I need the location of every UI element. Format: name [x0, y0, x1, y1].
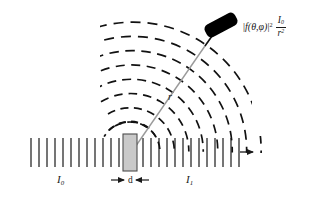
- formula-numerator: I0: [276, 16, 286, 27]
- sample-slab: [123, 134, 137, 171]
- thickness-label: d: [128, 176, 133, 186]
- formula-amplitude: |f(θ,φ)|2: [243, 22, 273, 32]
- scattered-intensity-formula: |f(θ,φ)|2 I0 r2: [243, 16, 286, 39]
- distance-label: r: [168, 92, 172, 102]
- scattering-diagram: I0 I1 d r |f(θ,φ)|2 I0 r2: [0, 0, 315, 207]
- formula-fraction: I0 r2: [276, 16, 287, 39]
- scattering-ray: [131, 30, 216, 153]
- detector-icon: [203, 11, 240, 39]
- incident-intensity-label: I0: [57, 174, 64, 186]
- transmitted-intensity-label: I1: [186, 174, 193, 186]
- formula-denominator: r2: [276, 27, 287, 39]
- beam-hatch-transmitted: [143, 138, 239, 167]
